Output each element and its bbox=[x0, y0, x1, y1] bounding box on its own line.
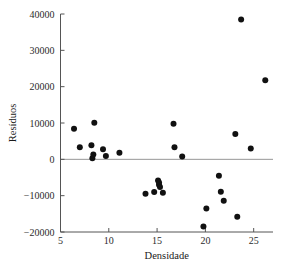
data-point bbox=[200, 224, 206, 230]
x-tick-label: 5 bbox=[58, 235, 63, 246]
data-point bbox=[160, 190, 166, 196]
plot-background bbox=[0, 0, 285, 265]
data-point bbox=[234, 214, 240, 220]
data-point bbox=[248, 145, 254, 151]
data-point bbox=[77, 144, 83, 150]
x-tick-label: 15 bbox=[152, 235, 162, 246]
x-tick-label: 20 bbox=[200, 235, 210, 246]
y-tick-label: −10000 bbox=[24, 190, 55, 201]
data-point bbox=[179, 153, 185, 159]
data-point bbox=[203, 205, 209, 211]
x-axis-title: Densidade bbox=[145, 250, 190, 261]
chart-canvas: −20000−10000010000200003000040000 510152… bbox=[0, 0, 285, 265]
data-point bbox=[71, 126, 77, 132]
data-point bbox=[91, 120, 97, 126]
data-point bbox=[90, 152, 96, 158]
y-tick-label: 0 bbox=[50, 154, 55, 165]
data-point bbox=[88, 142, 94, 148]
data-point bbox=[157, 184, 163, 190]
data-point bbox=[218, 189, 224, 195]
y-tick-label: 20000 bbox=[30, 81, 55, 92]
y-tick-label: 40000 bbox=[30, 9, 55, 20]
data-point bbox=[238, 16, 244, 22]
residuals-scatter-chart: −20000−10000010000200003000040000 510152… bbox=[0, 0, 285, 265]
data-point bbox=[232, 131, 238, 137]
y-tick-label: 30000 bbox=[30, 45, 55, 56]
data-point bbox=[216, 173, 222, 179]
data-point bbox=[143, 191, 149, 197]
data-point bbox=[262, 77, 268, 83]
y-axis-title: Resíduos bbox=[7, 104, 18, 143]
data-point bbox=[100, 146, 106, 152]
data-point bbox=[171, 121, 177, 127]
data-point bbox=[151, 189, 157, 195]
data-point bbox=[171, 144, 177, 150]
data-point bbox=[116, 150, 122, 156]
data-point bbox=[103, 153, 109, 159]
data-point bbox=[221, 198, 227, 204]
y-tick-label: −20000 bbox=[24, 227, 55, 238]
y-tick-label: 10000 bbox=[30, 118, 55, 129]
x-tick-label: 25 bbox=[249, 235, 259, 246]
x-tick-label: 10 bbox=[104, 235, 114, 246]
